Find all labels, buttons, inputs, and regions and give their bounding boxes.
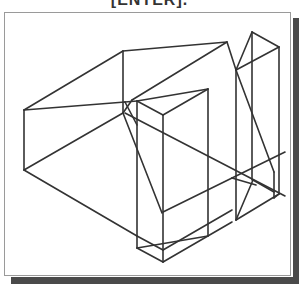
wireframe-drawing	[0, 0, 299, 284]
